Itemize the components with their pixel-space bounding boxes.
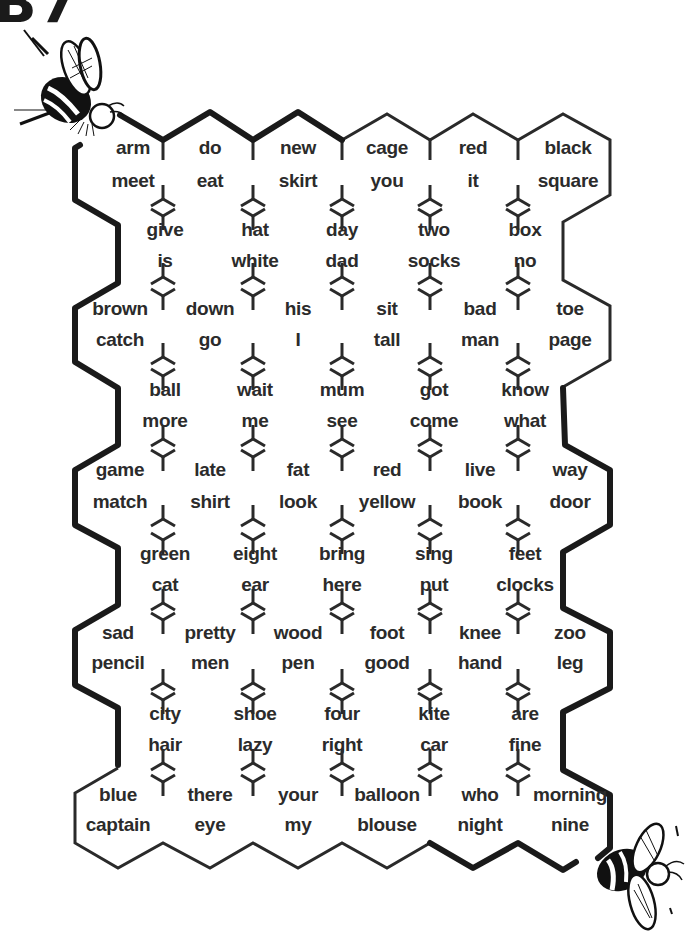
word-bottom: you — [371, 171, 404, 191]
word-bottom: my — [285, 815, 312, 835]
word-bottom: pencil — [91, 653, 144, 673]
word-top: sit — [376, 299, 397, 319]
word-bottom: eat — [197, 171, 224, 191]
word-top: late — [194, 460, 226, 480]
word-top: city — [149, 704, 181, 724]
word-top: fat — [287, 460, 309, 480]
word-top: down — [186, 299, 234, 319]
word-top: sing — [415, 544, 453, 564]
word-bottom: meet — [111, 171, 154, 191]
word-bottom: eye — [195, 815, 226, 835]
word-bottom: white — [231, 251, 278, 271]
word-bottom: me — [242, 411, 269, 431]
word-top: zoo — [554, 623, 586, 643]
word-top: day — [326, 220, 358, 240]
word-top: ball — [149, 380, 181, 400]
word-bottom: page — [548, 330, 591, 350]
word-top: red — [459, 138, 488, 158]
word-top: bring — [319, 544, 365, 564]
word-bottom: blouse — [357, 815, 416, 835]
word-top: sad — [102, 623, 134, 643]
word-bottom: cat — [152, 575, 179, 595]
word-top: black — [544, 138, 591, 158]
word-bottom: night — [458, 815, 503, 835]
word-bottom: door — [549, 492, 590, 512]
word-bottom: pen — [282, 653, 315, 673]
word-top: shoe — [233, 704, 276, 724]
word-bottom: lazy — [238, 735, 273, 755]
word-bottom: dad — [326, 251, 359, 271]
word-top: got — [420, 380, 449, 400]
word-top: two — [418, 220, 450, 240]
word-top: know — [501, 380, 548, 400]
word-top: his — [285, 299, 312, 319]
word-bottom: put — [420, 575, 449, 595]
word-top: pretty — [185, 623, 236, 643]
word-top: wait — [237, 380, 273, 400]
word-bottom: ear — [241, 575, 269, 595]
word-bottom: go — [199, 330, 222, 350]
bee-icon-top-left — [14, 28, 134, 138]
word-bottom: square — [538, 171, 599, 191]
word-bottom: what — [504, 411, 546, 431]
word-top: arm — [116, 138, 150, 158]
word-bottom: right — [322, 735, 363, 755]
word-bottom: it — [467, 171, 478, 191]
word-bottom: see — [327, 411, 358, 431]
word-top: morning — [533, 785, 607, 805]
word-bottom: skirt — [279, 171, 318, 191]
word-bottom: man — [461, 330, 499, 350]
word-bottom: car — [420, 735, 448, 755]
word-bottom: no — [514, 251, 537, 271]
word-bottom: fine — [509, 735, 542, 755]
word-bottom: come — [410, 411, 458, 431]
word-top: live — [465, 460, 496, 480]
word-top: are — [511, 704, 539, 724]
word-bottom: clocks — [496, 575, 553, 595]
bee-icon-bottom-right — [586, 820, 690, 940]
word-top: give — [147, 220, 184, 240]
word-top: bad — [464, 299, 497, 319]
word-top: blue — [99, 785, 137, 805]
word-top: kite — [418, 704, 450, 724]
word-bottom: more — [142, 411, 187, 431]
word-top: your — [278, 785, 318, 805]
word-bottom: catch — [96, 330, 144, 350]
word-top: four — [324, 704, 360, 724]
word-top: red — [373, 460, 402, 480]
word-top: mum — [320, 380, 365, 400]
word-top: new — [280, 138, 316, 158]
word-bottom: leg — [557, 653, 584, 673]
word-top: feet — [509, 544, 542, 564]
word-top: brown — [92, 299, 148, 319]
word-bottom: is — [157, 251, 172, 271]
word-bottom: hair — [148, 735, 182, 755]
word-top: way — [552, 460, 587, 480]
word-bottom: captain — [86, 815, 150, 835]
word-bottom: yellow — [359, 492, 415, 512]
word-top: eight — [233, 544, 277, 564]
word-top: hat — [241, 220, 269, 240]
word-bottom: book — [458, 492, 502, 512]
word-top: wood — [274, 623, 322, 643]
word-bottom: men — [191, 653, 229, 673]
word-top: who — [461, 785, 498, 805]
word-top: foot — [370, 623, 405, 643]
word-bottom: I — [296, 330, 301, 350]
word-top: toe — [556, 299, 584, 319]
word-bottom: tall — [374, 330, 400, 350]
word-bottom: shirt — [190, 492, 230, 512]
word-bottom: hand — [458, 653, 502, 673]
word-top: knee — [459, 623, 501, 643]
word-bottom: look — [279, 492, 317, 512]
word-bottom: good — [364, 653, 409, 673]
word-top: there — [188, 785, 233, 805]
word-top: balloon — [354, 785, 419, 805]
word-top: do — [199, 138, 222, 158]
word-bottom: match — [93, 492, 147, 512]
word-bottom: socks — [408, 251, 460, 271]
word-top: box — [509, 220, 542, 240]
word-bottom: nine — [551, 815, 589, 835]
word-top: green — [140, 544, 190, 564]
word-top: game — [96, 460, 144, 480]
